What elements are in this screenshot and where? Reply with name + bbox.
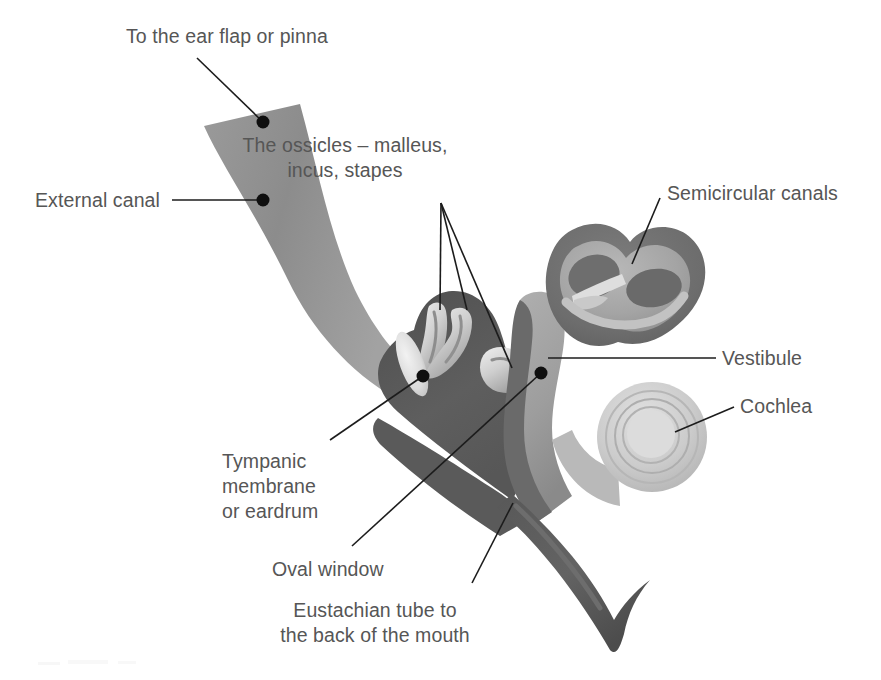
- label-vestibule: Vestibule: [722, 346, 802, 371]
- label-line: The ossicles – malleus,: [243, 133, 448, 158]
- label-line: membrane: [222, 474, 318, 499]
- label-semicircular-canals: Semicircular canals: [667, 181, 838, 206]
- label-line: Tympanic: [222, 449, 318, 474]
- anatomy-illustration: [0, 0, 881, 680]
- cochlea-group: [552, 382, 707, 506]
- label-the-ossicles-malleus-incus-stapes: The ossicles – malleus,incus, stapes: [243, 133, 448, 183]
- ear-anatomy-diagram: To the ear flap or pinnaExternal canalTh…: [0, 0, 881, 680]
- label-line: or eardrum: [222, 499, 318, 524]
- label-to-the-ear-flap-or-pinna: To the ear flap or pinna: [126, 24, 328, 49]
- label-line: incus, stapes: [243, 158, 448, 183]
- label-line: the back of the mouth: [280, 623, 470, 648]
- cochlea-center: [627, 410, 675, 458]
- label-cochlea: Cochlea: [740, 394, 812, 419]
- scan-artifact: [38, 660, 136, 665]
- label-line: External canal: [35, 188, 160, 213]
- leader-dot-ear-flap: [257, 116, 270, 129]
- leader-dot-external-canal: [257, 194, 270, 207]
- label-eustachian-tube-to-the-back-of-the-mouth: Eustachian tube tothe back of the mouth: [280, 598, 470, 648]
- label-line: Vestibule: [722, 346, 802, 371]
- label-line: Oval window: [272, 557, 384, 582]
- leader-line-ossicle-malleus: [440, 203, 441, 310]
- label-tympanic-membrane-or-eardrum: Tympanicmembraneor eardrum: [222, 449, 318, 524]
- label-line: Eustachian tube to: [280, 598, 470, 623]
- leader-line-ear-flap: [197, 58, 263, 122]
- label-oval-window: Oval window: [272, 557, 384, 582]
- label-external-canal: External canal: [35, 188, 160, 213]
- leader-dot-tympanic-membrane: [417, 370, 430, 383]
- label-line: Semicircular canals: [667, 181, 838, 206]
- label-line: Cochlea: [740, 394, 812, 419]
- eustachian-tube-group: [496, 494, 650, 652]
- leader-dot-oval-window: [535, 367, 548, 380]
- label-line: To the ear flap or pinna: [126, 24, 328, 49]
